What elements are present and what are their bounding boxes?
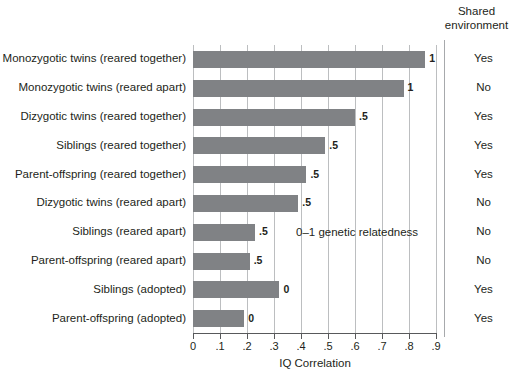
x-tick-label-.3: .3 (262, 340, 286, 352)
bar (193, 224, 255, 241)
shared-environment-value: No (444, 225, 523, 237)
bar (193, 253, 250, 270)
shared-environment-value: Yes (444, 283, 523, 295)
x-tick-label-.9: .9 (424, 340, 448, 352)
category-label: Siblings (reared together) (0, 139, 186, 151)
bar (193, 51, 425, 68)
bar-value-label: .5 (329, 139, 338, 151)
x-tick-label-.4: .4 (289, 340, 313, 352)
x-tick-0 (193, 334, 194, 339)
bar-value-label: .5 (310, 168, 319, 180)
x-tick-.4 (301, 334, 302, 339)
bar (193, 137, 325, 154)
x-tick-label-.7: .7 (370, 340, 394, 352)
x-tick-label-.6: .6 (343, 340, 367, 352)
shared-environment-header-line2: environment (430, 18, 523, 32)
shared-environment-value: Yes (444, 139, 523, 151)
shared-environment-value: No (444, 81, 523, 93)
x-tick-.6 (355, 334, 356, 339)
bar (193, 80, 404, 97)
category-label: Siblings (reared apart) (0, 225, 186, 237)
x-tick-.1 (220, 334, 221, 339)
genetic-relatedness-annotation: 0–1 genetic relatedness (296, 226, 418, 238)
category-label: Parent-offspring (reared together) (0, 168, 186, 180)
shared-environment-column-header: Shared environment (430, 4, 523, 32)
x-tick-.9 (436, 334, 437, 339)
x-tick-.8 (409, 334, 410, 339)
x-axis-title: IQ Correlation (193, 357, 437, 369)
x-tick-label-.8: .8 (397, 340, 421, 352)
bar (193, 166, 306, 183)
shared-environment-value: Yes (444, 52, 523, 64)
bar-value-label: 1 (429, 52, 435, 64)
shared-environment-value: Yes (444, 168, 523, 180)
shared-environment-value: No (444, 254, 523, 266)
bar-value-label: .5 (254, 254, 263, 266)
category-label: Parent-offspring (adopted) (0, 312, 186, 324)
shared-environment-value: No (444, 196, 523, 208)
x-tick-label-.2: .2 (235, 340, 259, 352)
x-axis-line (193, 333, 437, 334)
x-tick-.5 (328, 334, 329, 339)
shared-environment-value: Yes (444, 110, 523, 122)
category-label: Siblings (adopted) (0, 283, 186, 295)
bar (193, 109, 355, 126)
category-label: Dizygotic twins (reared apart) (0, 196, 186, 208)
x-tick-.7 (382, 334, 383, 339)
category-label: Dizygotic twins (reared together) (0, 110, 186, 122)
gridline-.9 (436, 45, 437, 333)
shared-environment-header-line1: Shared (430, 4, 523, 18)
x-tick-label-0: 0 (181, 340, 205, 352)
category-label: Monozygotic twins (reared apart) (0, 81, 186, 93)
bar-value-label: 0 (283, 283, 289, 295)
iq-correlation-chart: Shared environment 0.1.2.3.4.5.6.7.8.9 I… (0, 0, 523, 391)
bar-value-label: .5 (302, 196, 311, 208)
bar-value-label: 1 (408, 81, 414, 93)
bar-value-label: .5 (359, 110, 368, 122)
x-tick-label-.5: .5 (316, 340, 340, 352)
bar-value-label: 0 (248, 312, 254, 324)
x-tick-.3 (274, 334, 275, 339)
x-tick-.2 (247, 334, 248, 339)
bar-value-label: .5 (259, 225, 268, 237)
bar (193, 310, 244, 327)
shared-environment-value: Yes (444, 312, 523, 324)
bar (193, 195, 298, 212)
category-label: Monozygotic twins (reared together) (0, 52, 186, 64)
x-tick-label-.1: .1 (208, 340, 232, 352)
category-label: Parent-offspring (reared apart) (0, 254, 186, 266)
bar (193, 281, 279, 298)
